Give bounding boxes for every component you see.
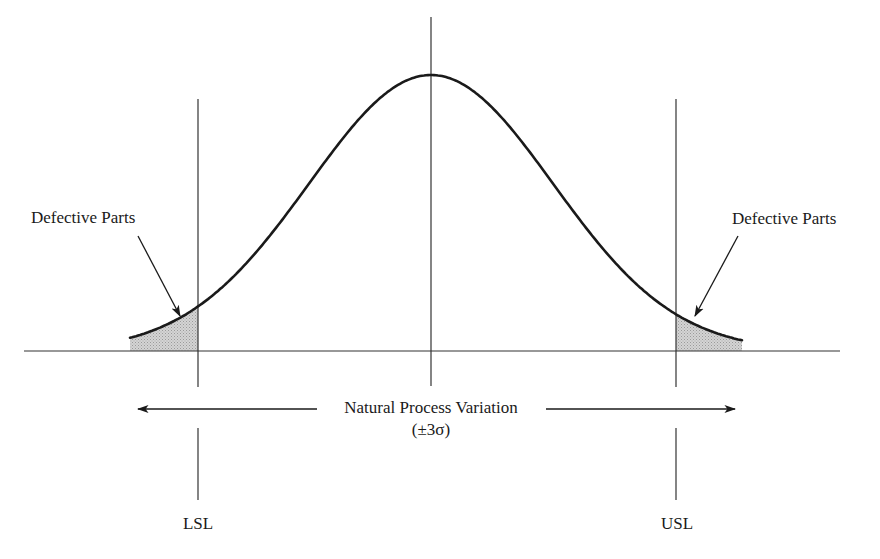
- normal-distribution-curve: [130, 75, 742, 340]
- natural-process-variation-label: Natural Process Variation: [344, 399, 517, 416]
- process-capability-diagram: [0, 0, 880, 559]
- lsl-label: LSL: [183, 515, 213, 532]
- defective-parts-label-right: Defective Parts: [732, 210, 836, 227]
- usl-label: USL: [661, 515, 693, 532]
- defective-arrow-left: [138, 236, 180, 316]
- defective-parts-label-left: Defective Parts: [31, 209, 135, 226]
- defective-arrow-right: [695, 236, 738, 316]
- sigma-label: (±3σ): [412, 421, 450, 438]
